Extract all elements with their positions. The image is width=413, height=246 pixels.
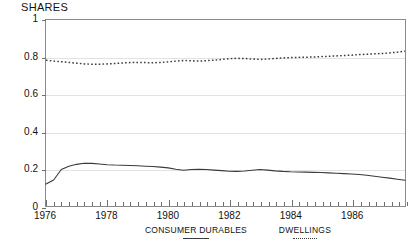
series-line-1 (46, 163, 405, 184)
series-line-2 (46, 51, 405, 64)
x-tick-label: 1984 (280, 210, 302, 221)
plot-area (45, 19, 406, 207)
y-tick-label: 0.8 (0, 51, 38, 62)
y-tick-label: 0.2 (0, 163, 38, 174)
legend-item: DWELLINGS (245, 225, 365, 239)
y-tick-mark (42, 208, 46, 209)
legend-swatch-dotted (293, 238, 317, 239)
x-tick-label: 1986 (341, 210, 363, 221)
page-title: SHARES (21, 1, 68, 13)
x-tick-label: 1980 (157, 210, 179, 221)
legend-item: CONSUMER DURABLES (136, 225, 256, 239)
y-tick-label: 1 (0, 13, 38, 24)
y-tick-label: 0.4 (0, 126, 38, 137)
chart-legend: CONSUMER DURABLESDWELLINGS (0, 225, 413, 246)
x-tick-label: 1978 (95, 210, 117, 221)
data-series-layer (46, 20, 405, 206)
legend-label: DWELLINGS (245, 225, 365, 235)
x-tick-label: 1976 (34, 210, 56, 221)
x-tick-label: 1982 (218, 210, 240, 221)
x-tick-mark-minor (407, 202, 408, 206)
y-tick-label: 0.6 (0, 88, 38, 99)
y-tick-label: 0 (0, 201, 38, 212)
chart-root: SHARES 00.20.40.60.81 197619781980198219… (0, 0, 413, 246)
legend-swatch-solid (183, 238, 209, 239)
legend-label: CONSUMER DURABLES (136, 225, 256, 235)
